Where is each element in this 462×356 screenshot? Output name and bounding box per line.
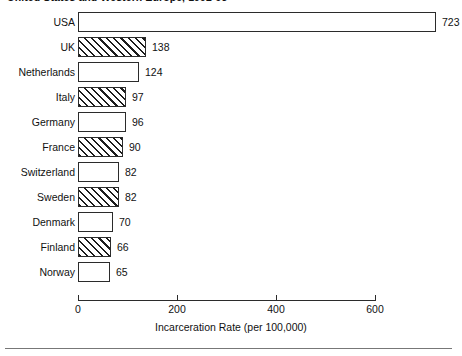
bar [78, 12, 436, 32]
category-label: Germany [32, 112, 75, 132]
bar-value-label: 82 [125, 187, 137, 207]
bar [78, 137, 123, 157]
bar-value-label: 723 [442, 12, 460, 32]
plot-area: USA723UK138Netherlands124Italy97Germany9… [0, 12, 462, 297]
category-label: Norway [39, 262, 75, 282]
x-axis-title: Incarceration Rate (per 100,000) [0, 321, 462, 333]
x-axis-tick [177, 295, 178, 301]
bar [78, 87, 126, 107]
x-axis-tick-label: 400 [256, 303, 296, 315]
bar-row: USA723 [0, 12, 462, 32]
chart-title: United States and Western Europe, 1992-9… [7, 0, 227, 3]
bar-row: Sweden82 [0, 187, 462, 207]
bar-row: Denmark70 [0, 212, 462, 232]
category-label: Switzerland [21, 162, 75, 182]
chart-figure: United States and Western Europe, 1992-9… [0, 0, 462, 356]
x-axis-tick-label: 600 [355, 303, 395, 315]
x-axis-tick-label: 200 [157, 303, 197, 315]
category-label: Italy [56, 87, 75, 107]
bar-row: France90 [0, 137, 462, 157]
bottom-divider [5, 348, 452, 349]
bar-row: UK138 [0, 37, 462, 57]
category-label: USA [53, 12, 75, 32]
bar [78, 237, 111, 257]
bar-value-label: 97 [132, 87, 144, 107]
category-label: Denmark [32, 212, 75, 232]
bar [78, 187, 119, 207]
x-axis-tick-label: 0 [58, 303, 98, 315]
x-axis-tick [276, 295, 277, 301]
category-label: UK [60, 37, 75, 57]
bar [78, 212, 113, 232]
category-label: Sweden [37, 187, 75, 207]
bar-row: Netherlands124 [0, 62, 462, 82]
bar-value-label: 90 [129, 137, 141, 157]
category-label: Netherlands [18, 62, 75, 82]
x-axis-tick [78, 295, 79, 301]
bar-value-label: 82 [125, 162, 137, 182]
bar-value-label: 65 [116, 262, 128, 282]
x-axis-line [78, 300, 375, 301]
bar-row: Germany96 [0, 112, 462, 132]
bar [78, 262, 110, 282]
x-axis-tick [375, 295, 376, 301]
bar-value-label: 124 [145, 62, 163, 82]
bar [78, 162, 119, 182]
bar [78, 62, 139, 82]
category-label: France [42, 137, 75, 157]
bar [78, 112, 126, 132]
bar-value-label: 96 [132, 112, 144, 132]
category-label: Finland [41, 237, 75, 257]
bar-value-label: 70 [119, 212, 131, 232]
bar-value-label: 138 [152, 37, 170, 57]
bar [78, 37, 146, 57]
bar-value-label: 66 [117, 237, 129, 257]
bar-row: Switzerland82 [0, 162, 462, 182]
bar-row: Finland66 [0, 237, 462, 257]
bar-row: Italy97 [0, 87, 462, 107]
bar-row: Norway65 [0, 262, 462, 282]
